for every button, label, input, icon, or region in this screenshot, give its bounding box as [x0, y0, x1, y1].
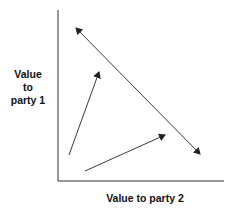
- y-axis-label-line-2: to: [4, 81, 52, 94]
- party2-gain-arrow: [85, 135, 165, 171]
- y-axis-label-line-1: Value: [4, 68, 52, 81]
- diagram-canvas: [0, 0, 233, 215]
- tradeoff-double-arrow: [76, 28, 200, 154]
- y-axis-label: Value to party 1: [4, 68, 52, 107]
- party1-gain-arrow: [69, 72, 99, 155]
- value-tradeoff-diagram: Value to party 1 Value to party 2: [0, 0, 233, 215]
- x-axis-label: Value to party 2: [90, 192, 200, 204]
- y-axis-label-line-3: party 1: [4, 94, 52, 107]
